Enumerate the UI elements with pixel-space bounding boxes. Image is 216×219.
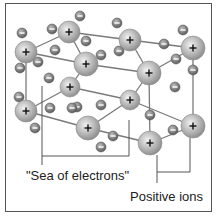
electron-icon (47, 24, 57, 34)
electron-icon (168, 125, 178, 135)
sea-of-electrons-label: "Sea of electrons" (26, 168, 129, 183)
electron-icon (81, 36, 91, 46)
electron-icon (45, 103, 55, 113)
electron-icon (96, 142, 106, 152)
positive-ion-icon (76, 116, 100, 140)
positive-ion-icon (15, 100, 37, 122)
positive-ion-icon (58, 21, 80, 43)
electron-icon (108, 131, 118, 141)
positive-ions-label: Positive ions (130, 189, 203, 204)
positive-ion-icon (119, 29, 141, 51)
electron-icon (44, 73, 54, 83)
electron-icon (188, 65, 198, 75)
lattice-graphic (0, 0, 216, 219)
electron-icon (145, 110, 155, 120)
electron-icon (17, 28, 27, 38)
positive-ion-icon (181, 36, 205, 60)
positive-ion-icon (120, 90, 140, 110)
electron-icon (75, 11, 85, 21)
electron-icon (171, 54, 181, 64)
positive-ion-icon (137, 61, 161, 85)
electron-icon (178, 25, 188, 35)
electron-icon (159, 39, 169, 49)
positive-ion-icon (15, 41, 37, 63)
positive-ion-icon (138, 131, 162, 155)
electron-icon (15, 63, 25, 73)
positive-ion-icon (181, 114, 205, 138)
electron-icon (96, 100, 106, 110)
electron-icon (30, 123, 40, 133)
electron-icon (67, 103, 77, 113)
positive-ion-icon (60, 77, 80, 97)
electron-icon (170, 82, 180, 92)
electron-icon (50, 45, 60, 55)
positive-ion-icon (74, 52, 98, 76)
electron-icon (96, 50, 106, 60)
electron-icon (112, 18, 122, 28)
metallic-bonding-diagram: "Sea of electrons" Positive ions (0, 0, 216, 219)
